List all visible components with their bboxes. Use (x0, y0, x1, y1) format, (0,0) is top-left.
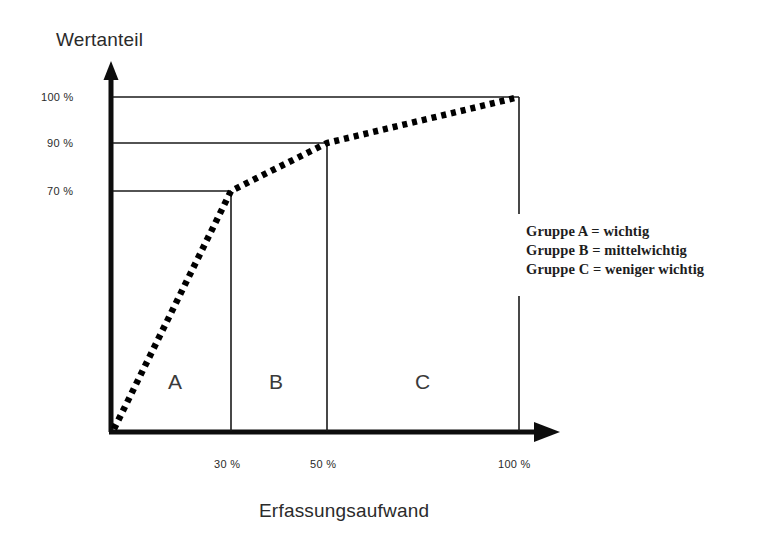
y-axis-title: Wertanteil (56, 29, 143, 51)
y-tick-label-90: 90 % (47, 137, 73, 149)
x-axis-title: Erfassungsaufwand (259, 500, 429, 522)
y-tick-label-70: 70 % (47, 185, 73, 197)
zone-label-b: B (269, 370, 283, 394)
y-axis (104, 61, 119, 432)
zone-label-c: C (415, 370, 430, 394)
abc-analysis-chart: Wertanteil Erfassungsaufwand 100 % 90 % … (0, 0, 764, 546)
legend-item-gruppe-a: Gruppe A = wichtig (526, 222, 704, 241)
x-tick-label-50: 50 % (310, 458, 336, 470)
zone-label-a: A (168, 370, 182, 394)
y-tick-label-100: 100 % (41, 91, 74, 103)
legend-item-gruppe-b: Gruppe B = mittelwichtig (526, 241, 704, 260)
x-tick-label-100: 100 % (498, 458, 531, 470)
legend-item-gruppe-c: Gruppe C = weniger wichtig (526, 260, 704, 279)
x-axis (109, 422, 560, 442)
x-tick-label-30: 30 % (214, 458, 240, 470)
legend: Gruppe A = wichtig Gruppe B = mittelwich… (526, 222, 704, 279)
